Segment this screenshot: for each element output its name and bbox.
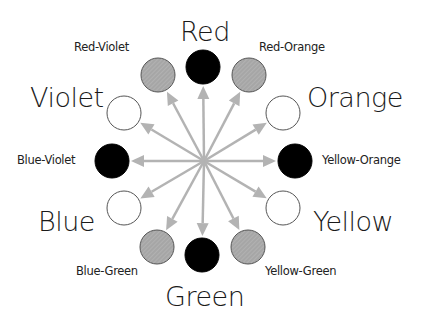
arrow-head-icon xyxy=(197,86,209,99)
arrow-shaft xyxy=(203,161,204,223)
color-node-blue xyxy=(107,191,141,225)
color-node-blue-violet xyxy=(95,144,129,178)
color-node-yellow xyxy=(266,191,300,225)
color-node-blue-green xyxy=(140,230,174,264)
label-red-orange: Red-Orange xyxy=(259,42,325,54)
label-yellow: Yellow xyxy=(313,208,393,235)
label-violet: Violet xyxy=(30,84,104,111)
arrow-head-icon xyxy=(131,155,144,167)
label-blue-violet: Blue-Violet xyxy=(17,155,75,167)
arrows-group xyxy=(131,86,276,236)
color-node-red-orange xyxy=(232,58,266,92)
color-node-orange xyxy=(266,96,300,130)
color-node-violet xyxy=(107,96,141,130)
arrow-head-icon xyxy=(197,223,209,236)
color-node-yellow-orange xyxy=(278,144,312,178)
label-blue-green: Blue-Green xyxy=(76,266,138,278)
label-red: Red xyxy=(180,18,230,45)
color-node-red-violet xyxy=(141,58,175,92)
label-orange: Orange xyxy=(307,84,403,111)
label-yellow-green: Yellow-Green xyxy=(265,266,336,278)
label-green: Green xyxy=(165,283,244,310)
color-node-yellow-green xyxy=(231,230,265,264)
arrow-shaft xyxy=(203,99,204,161)
color-node-red xyxy=(186,50,220,84)
label-red-violet: Red-Violet xyxy=(74,42,129,54)
arrow-head-icon xyxy=(263,155,276,167)
label-yellow-orange: Yellow-Orange xyxy=(322,155,400,167)
color-node-green xyxy=(185,238,219,272)
label-blue: Blue xyxy=(38,208,95,235)
